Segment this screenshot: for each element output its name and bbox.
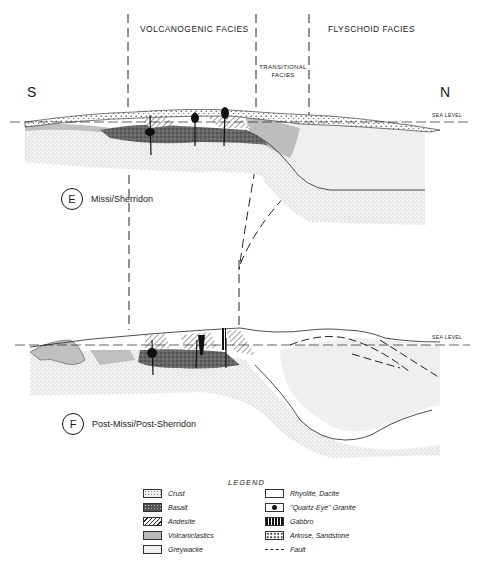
north-label: N — [440, 84, 450, 100]
legend-item-basalt: Basalt — [143, 500, 214, 514]
legend-item-granite: ''Quartz-Eye'' Granite — [265, 500, 356, 514]
section-e-badge: E — [61, 188, 83, 210]
section-e-label: E Missi/Sherridon — [61, 188, 153, 210]
andesite-swatch-icon — [143, 517, 162, 526]
sea-level-label-f: SEA LEVEL — [432, 334, 462, 340]
crust-swatch-icon — [143, 489, 162, 498]
section-f-name: Post-Missi/Post-Sherridon — [92, 419, 196, 429]
granite-swatch-icon — [265, 503, 284, 512]
legend-item-gabbro: Gabbro — [265, 514, 356, 528]
legend-label: Arkose, Sandstone — [290, 532, 349, 539]
legend-label: Rhyolite, Dacite — [290, 490, 339, 497]
greywacke-swatch-icon — [143, 545, 162, 554]
legend-title: LEGEND — [228, 478, 265, 487]
legend-label: Greywacke — [168, 546, 203, 553]
transitional-label-line1: TRANSITIONAL — [256, 63, 310, 71]
legend-label: ''Quartz-Eye'' Granite — [290, 504, 356, 511]
transitional-label-line2: FACIES — [256, 71, 310, 79]
gabbro-swatch-icon — [265, 517, 284, 526]
volcanogenic-facies-label: VOLCANOGENIC FACIES — [140, 24, 249, 34]
legend-label: Basalt — [168, 504, 187, 511]
transitional-facies-label: TRANSITIONAL FACIES — [256, 63, 310, 79]
section-f-label: F Post-Missi/Post-Sherridon — [62, 413, 196, 435]
section-f-geology — [15, 328, 470, 458]
volcaniclastics-swatch-icon — [143, 531, 162, 540]
section-e-name: Missi/Sherridon — [91, 194, 153, 204]
section-f-badge: F — [62, 413, 84, 435]
legend-item-rhyolite: Rhyolite, Dacite — [265, 486, 356, 500]
south-label: S — [27, 84, 36, 100]
legend-label: Andesite — [168, 518, 195, 525]
legend-item-crust: Crust — [143, 486, 214, 500]
legend-label: Crust — [168, 490, 185, 497]
granite-blob-icon — [272, 505, 277, 510]
legend-left-column: Crust Basalt Andesite Volcaniclastics Gr… — [143, 486, 214, 556]
legend-item-andesite: Andesite — [143, 514, 214, 528]
legend-label: Volcaniclastics — [168, 532, 214, 539]
arkose-swatch-icon — [265, 531, 284, 540]
legend-right-column: Rhyolite, Dacite ''Quartz-Eye'' Granite … — [265, 486, 356, 556]
legend-item-arkose: Arkose, Sandstone — [265, 528, 356, 542]
rhyolite-swatch-icon — [265, 489, 284, 498]
fault-line-icon — [265, 549, 284, 550]
legend-item-volcaniclastics: Volcaniclastics — [143, 528, 214, 542]
legend-label: Fault — [290, 546, 306, 553]
legend-label: Gabbro — [290, 518, 313, 525]
legend-item-fault: Fault — [265, 542, 356, 556]
basalt-swatch-icon — [143, 503, 162, 512]
sea-level-label-e: SEA LEVEL — [432, 112, 462, 118]
flyschoid-facies-label: FLYSCHOID FACIES — [328, 24, 415, 34]
legend-item-greywacke: Greywacke — [143, 542, 214, 556]
